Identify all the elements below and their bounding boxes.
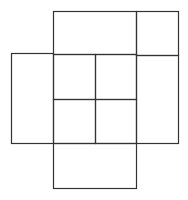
rect-center-top-left [54, 55, 96, 100]
grid-diagram [0, 0, 188, 200]
rect-center-top-right [96, 55, 137, 100]
rect-top-right [137, 12, 179, 56]
rect-right-tall [137, 56, 179, 144]
rect-left-tall [12, 54, 54, 144]
rect-center-bottom-right [96, 100, 137, 144]
rect-center-bottom-left [54, 100, 96, 144]
rect-bottom-wide [54, 144, 137, 189]
rect-top-wide [54, 12, 137, 55]
